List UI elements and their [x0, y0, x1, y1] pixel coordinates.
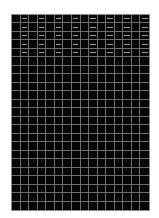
grid-cell[interactable]: [46, 151, 55, 159]
grid-cell[interactable]: [55, 74, 64, 82]
grid-cell[interactable]: [46, 23, 55, 31]
grid-cell[interactable]: [46, 49, 55, 57]
grid-cell[interactable]: [21, 66, 30, 74]
spreadsheet-grid[interactable]: ————————————————————————————————————————: [11, 14, 150, 211]
grid-cell[interactable]: —: [72, 40, 81, 48]
grid-cell[interactable]: [46, 32, 55, 40]
grid-cell[interactable]: [98, 100, 107, 108]
grid-cell[interactable]: [89, 134, 98, 142]
grid-cell[interactable]: [115, 168, 124, 176]
grid-cell[interactable]: [89, 151, 98, 159]
grid-cell[interactable]: [46, 91, 55, 99]
grid-cell[interactable]: [63, 108, 72, 116]
grid-cell[interactable]: [12, 49, 21, 57]
grid-cell[interactable]: [98, 176, 107, 184]
grid-cell[interactable]: [29, 185, 38, 193]
grid-cell[interactable]: [46, 57, 55, 65]
grid-cell[interactable]: [132, 23, 141, 31]
grid-cell[interactable]: [140, 100, 149, 108]
grid-cell[interactable]: [115, 49, 124, 57]
grid-cell[interactable]: [81, 66, 90, 74]
grid-cell[interactable]: [123, 134, 132, 142]
grid-cell[interactable]: [115, 15, 124, 23]
grid-cell[interactable]: [81, 100, 90, 108]
grid-cell[interactable]: [81, 15, 90, 23]
grid-cell[interactable]: [46, 159, 55, 167]
grid-cell[interactable]: —: [21, 49, 30, 57]
grid-cell[interactable]: [81, 91, 90, 99]
grid-cell[interactable]: [89, 91, 98, 99]
grid-cell[interactable]: [29, 23, 38, 31]
grid-cell[interactable]: [46, 117, 55, 125]
grid-cell[interactable]: [115, 159, 124, 167]
grid-cell[interactable]: [63, 134, 72, 142]
grid-cell[interactable]: [63, 176, 72, 184]
grid-cell[interactable]: [106, 176, 115, 184]
grid-cell[interactable]: [123, 57, 132, 65]
grid-cell[interactable]: [115, 108, 124, 116]
grid-cell[interactable]: [123, 125, 132, 133]
grid-cell[interactable]: [140, 66, 149, 74]
grid-cell[interactable]: [55, 168, 64, 176]
grid-cell[interactable]: [55, 108, 64, 116]
grid-cell[interactable]: —: [123, 49, 132, 57]
grid-cell[interactable]: [29, 176, 38, 184]
grid-cell[interactable]: —: [55, 32, 64, 40]
grid-cell[interactable]: [140, 74, 149, 82]
grid-cell[interactable]: [123, 108, 132, 116]
grid-cell[interactable]: [21, 74, 30, 82]
grid-cell[interactable]: [106, 159, 115, 167]
grid-cell[interactable]: [115, 40, 124, 48]
grid-cell[interactable]: [38, 159, 47, 167]
grid-cell[interactable]: [21, 202, 30, 210]
grid-cell[interactable]: [132, 74, 141, 82]
grid-cell[interactable]: [38, 142, 47, 150]
grid-cell[interactable]: [63, 66, 72, 74]
grid-cell[interactable]: [132, 32, 141, 40]
grid-cell[interactable]: [106, 142, 115, 150]
grid-cell[interactable]: [123, 100, 132, 108]
grid-cell[interactable]: [115, 23, 124, 31]
grid-cell[interactable]: [29, 91, 38, 99]
grid-cell[interactable]: [81, 185, 90, 193]
grid-cell[interactable]: [63, 159, 72, 167]
grid-cell[interactable]: [72, 193, 81, 201]
grid-cell[interactable]: [21, 176, 30, 184]
grid-cell[interactable]: [63, 100, 72, 108]
grid-cell[interactable]: —: [72, 23, 81, 31]
grid-cell[interactable]: [132, 57, 141, 65]
grid-cell[interactable]: [38, 74, 47, 82]
grid-cell[interactable]: [89, 117, 98, 125]
grid-cell[interactable]: [132, 15, 141, 23]
grid-cell[interactable]: [72, 91, 81, 99]
grid-cell[interactable]: [72, 66, 81, 74]
grid-cell[interactable]: [63, 151, 72, 159]
grid-cell[interactable]: [12, 108, 21, 116]
grid-cell[interactable]: [29, 100, 38, 108]
grid-cell[interactable]: [12, 32, 21, 40]
grid-cell[interactable]: [12, 57, 21, 65]
grid-cell[interactable]: [106, 117, 115, 125]
grid-cell[interactable]: —: [123, 23, 132, 31]
grid-cell[interactable]: [46, 176, 55, 184]
grid-cell[interactable]: [98, 159, 107, 167]
grid-cell[interactable]: [63, 32, 72, 40]
grid-cell[interactable]: [89, 74, 98, 82]
grid-cell[interactable]: [63, 117, 72, 125]
grid-cell[interactable]: —: [89, 32, 98, 40]
grid-cell[interactable]: [123, 151, 132, 159]
grid-cell[interactable]: [115, 142, 124, 150]
grid-cell[interactable]: [81, 176, 90, 184]
grid-cell[interactable]: [29, 168, 38, 176]
grid-cell[interactable]: [12, 159, 21, 167]
grid-cell[interactable]: [115, 66, 124, 74]
grid-cell[interactable]: [55, 142, 64, 150]
grid-cell[interactable]: [140, 91, 149, 99]
grid-cell[interactable]: [98, 202, 107, 210]
grid-cell[interactable]: [98, 151, 107, 159]
grid-cell[interactable]: [12, 142, 21, 150]
grid-cell[interactable]: —: [72, 32, 81, 40]
grid-cell[interactable]: [115, 185, 124, 193]
grid-cell[interactable]: [12, 176, 21, 184]
grid-cell[interactable]: [98, 23, 107, 31]
